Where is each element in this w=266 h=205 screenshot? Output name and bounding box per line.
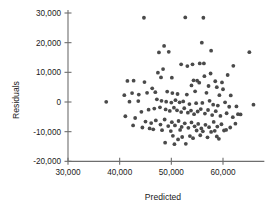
- data-point: [189, 109, 193, 113]
- x-tick-label: 60,000: [210, 168, 235, 177]
- data-point: [198, 133, 202, 137]
- y-tick-label: 0: [56, 98, 61, 107]
- data-point: [206, 135, 210, 139]
- data-point: [216, 104, 220, 108]
- data-point: [208, 99, 212, 103]
- data-point: [168, 109, 172, 113]
- data-point: [217, 93, 221, 97]
- data-point: [183, 121, 187, 125]
- data-point: [196, 122, 200, 126]
- data-point: [175, 108, 179, 112]
- data-point: [163, 141, 167, 145]
- data-point: [169, 101, 173, 105]
- data-point: [213, 79, 217, 83]
- data-point: [161, 67, 165, 71]
- data-point: [207, 84, 211, 88]
- data-point: [165, 90, 169, 94]
- data-point: [190, 121, 194, 125]
- data-point: [104, 100, 108, 104]
- data-point: [194, 101, 198, 105]
- data-point: [204, 123, 208, 127]
- data-point: [234, 122, 238, 126]
- data-point: [182, 106, 186, 110]
- data-point: [141, 126, 145, 130]
- y-tick-label: 20,000: [36, 39, 61, 48]
- data-point: [157, 51, 161, 55]
- data-point: [231, 64, 235, 68]
- data-point: [131, 124, 135, 128]
- data-point: [178, 100, 182, 104]
- data-point: [169, 129, 173, 133]
- data-point: [227, 105, 231, 109]
- data-point: [183, 16, 187, 20]
- data-point: [144, 120, 148, 124]
- axes-group: [68, 10, 264, 161]
- data-point: [178, 128, 182, 132]
- data-point: [136, 99, 140, 103]
- data-point: [174, 98, 178, 102]
- data-point: [123, 114, 127, 118]
- data-point: [177, 119, 181, 123]
- data-point: [222, 129, 226, 133]
- data-point: [206, 108, 210, 112]
- data-point: [203, 112, 207, 116]
- data-point: [188, 134, 192, 138]
- data-point: [170, 76, 174, 80]
- data-point: [173, 124, 177, 128]
- data-point: [148, 126, 152, 130]
- y-tick-label: -20,000: [33, 157, 61, 166]
- tick-marks-group: [65, 13, 224, 165]
- data-point: [210, 113, 214, 117]
- data-point: [200, 41, 204, 45]
- y-tick-label: 10,000: [36, 68, 61, 77]
- data-point: [201, 16, 205, 20]
- data-point: [145, 91, 149, 95]
- data-point: [226, 73, 230, 77]
- data-point: [153, 90, 157, 94]
- data-point: [191, 62, 195, 66]
- data-point: [203, 74, 207, 78]
- data-point: [186, 126, 190, 130]
- x-tick-label: 30,000: [55, 168, 80, 177]
- data-point: [212, 120, 216, 124]
- data-point: [219, 114, 223, 118]
- data-point: [143, 80, 147, 84]
- y-axis-title: Residuals: [11, 81, 21, 119]
- data-point: [155, 97, 159, 101]
- data-point: [235, 105, 239, 109]
- data-point: [223, 100, 227, 104]
- data-point: [192, 78, 196, 82]
- data-point: [180, 135, 184, 139]
- data-point: [171, 134, 175, 138]
- data-point: [214, 109, 218, 113]
- data-point: [164, 100, 168, 104]
- data-point: [220, 122, 224, 126]
- data-point: [229, 94, 233, 98]
- plot-canvas: -20,000-10,000010,00020,00030,00030,0004…: [0, 0, 266, 205]
- y-tick-label: 30,000: [36, 9, 61, 18]
- data-point: [209, 49, 213, 53]
- data-point: [217, 137, 221, 141]
- data-point: [152, 107, 156, 111]
- data-point: [173, 142, 177, 146]
- data-point: [181, 100, 185, 104]
- data-point: [184, 142, 188, 146]
- y-tick-label: -10,000: [33, 128, 61, 137]
- data-point: [185, 93, 189, 97]
- data-point: [160, 128, 164, 132]
- data-point: [188, 102, 192, 106]
- data-point: [215, 85, 219, 89]
- data-point: [154, 118, 158, 122]
- data-point: [209, 72, 213, 76]
- data-point: [159, 123, 163, 127]
- data-point: [147, 108, 151, 112]
- data-point: [160, 99, 164, 103]
- data-point: [158, 105, 162, 109]
- x-tick-label: 50,000: [159, 168, 184, 177]
- data-point: [247, 50, 251, 54]
- data-point: [130, 91, 134, 95]
- data-point: [252, 103, 256, 107]
- x-tick-label: 40,000: [107, 168, 132, 177]
- data-point: [209, 130, 213, 134]
- data-point: [202, 62, 206, 66]
